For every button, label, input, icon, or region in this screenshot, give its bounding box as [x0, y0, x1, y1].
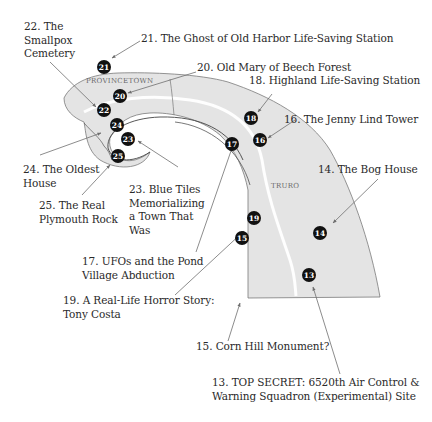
marker-20[interactable]: 20: [113, 89, 127, 103]
marker-18[interactable]: 18: [244, 111, 258, 125]
svg-text:20: 20: [115, 92, 125, 101]
label-17-line-1: 17. UFOs and the Pond: [82, 255, 203, 269]
label-25-line-2: Plymouth Rock: [39, 213, 118, 227]
label-20: 20. Old Mary of Beech Forest: [197, 61, 351, 75]
label-13: 13. TOP SECRET: 6520th Air Control & War…: [212, 376, 419, 403]
label-23: 23. Blue Tiles Memorializing a Town That…: [129, 183, 205, 237]
svg-text:13: 13: [304, 271, 314, 280]
marker-13[interactable]: 13: [302, 268, 316, 282]
label-15-line: 15. Corn Hill Monument?: [196, 340, 329, 354]
svg-text:17: 17: [227, 140, 237, 149]
label-24-line-1: 24. The Oldest: [23, 163, 99, 177]
label-22-line-2: Smallpox: [24, 34, 75, 48]
marker-14[interactable]: 14: [313, 226, 327, 240]
label-17: 17. UFOs and the Pond Village Abduction: [82, 255, 203, 282]
label-25: 25. The Real Plymouth Rock: [39, 199, 118, 226]
marker-21[interactable]: 21: [97, 60, 111, 74]
marker-16[interactable]: 16: [253, 133, 267, 147]
label-23-line-3: a Town That: [129, 210, 205, 224]
label-24-line-2: House: [23, 177, 99, 191]
label-13-line-2: Warning Squadron (Experimental) Site: [212, 390, 419, 404]
label-18: 18. Highland Life-Saving Station: [249, 74, 420, 88]
svg-text:21: 21: [99, 63, 109, 72]
label-22-line-3: Cemetery: [24, 47, 75, 61]
label-16-line: 16. The Jenny Lind Tower: [284, 113, 418, 127]
svg-text:16: 16: [255, 136, 265, 145]
label-23-line-4: Was: [129, 224, 205, 238]
label-19-line-1: 19. A Real-Life Horror Story:: [63, 294, 215, 308]
label-24: 24. The Oldest House: [23, 163, 99, 190]
label-20-line: 20. Old Mary of Beech Forest: [197, 61, 351, 75]
label-21: 21. The Ghost of Old Harbor Life-Saving …: [141, 32, 393, 46]
label-25-line-1: 25. The Real: [39, 199, 118, 213]
marker-23[interactable]: 23: [121, 132, 135, 146]
marker-25[interactable]: 25: [111, 149, 125, 163]
marker-22[interactable]: 22: [97, 103, 111, 117]
marker-17[interactable]: 17: [225, 137, 239, 151]
svg-text:23: 23: [123, 135, 133, 144]
town-label-truro: TRURO: [271, 182, 299, 190]
label-21-line: 21. The Ghost of Old Harbor Life-Saving …: [141, 32, 393, 46]
label-19-line-2: Tony Costa: [63, 308, 215, 322]
svg-text:14: 14: [315, 229, 325, 238]
town-label-provincetown: PROVINCETOWN: [86, 77, 153, 85]
label-22-line-1: 22. The: [24, 20, 75, 34]
label-14: 14. The Bog House: [318, 163, 418, 177]
label-15: 15. Corn Hill Monument?: [196, 340, 329, 354]
label-17-line-2: Village Abduction: [82, 269, 203, 283]
label-16: 16. The Jenny Lind Tower: [284, 113, 418, 127]
marker-24[interactable]: 24: [110, 118, 124, 132]
marker-15[interactable]: 15: [235, 231, 249, 245]
svg-text:19: 19: [249, 214, 259, 223]
svg-text:25: 25: [113, 152, 123, 161]
label-22: 22. The Smallpox Cemetery: [24, 20, 75, 61]
svg-text:15: 15: [237, 234, 247, 243]
svg-text:24: 24: [112, 121, 122, 130]
label-23-line-2: Memorializing: [129, 197, 205, 211]
marker-19[interactable]: 19: [247, 211, 261, 225]
label-19: 19. A Real-Life Horror Story: Tony Costa: [63, 294, 215, 321]
svg-text:18: 18: [246, 114, 256, 123]
label-18-line: 18. Highland Life-Saving Station: [249, 74, 420, 88]
label-14-line: 14. The Bog House: [318, 163, 418, 177]
svg-text:22: 22: [99, 106, 109, 115]
label-13-line-1: 13. TOP SECRET: 6520th Air Control &: [212, 376, 419, 390]
label-23-line-1: 23. Blue Tiles: [129, 183, 205, 197]
